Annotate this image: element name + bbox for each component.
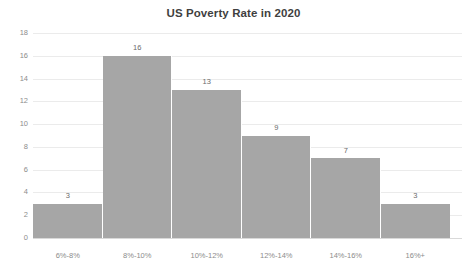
chart-title: US Poverty Rate in 2020 bbox=[0, 7, 467, 19]
y-axis-tick-label: 0 bbox=[0, 234, 28, 242]
x-axis: 6%-8%8%-10%10%-12%12%-14%14%-16%16%+ bbox=[33, 252, 450, 266]
x-axis-tick-label: 8%-10% bbox=[103, 252, 173, 260]
bar[interactable] bbox=[103, 56, 173, 238]
gridline bbox=[33, 238, 462, 239]
bar-value-label: 7 bbox=[311, 147, 381, 155]
y-axis-tick-label: 6 bbox=[0, 166, 28, 174]
bar[interactable] bbox=[311, 158, 381, 238]
bar-value-label: 3 bbox=[381, 192, 451, 200]
x-axis-tick-label: 6%-8% bbox=[33, 252, 103, 260]
y-axis-tick-label: 16 bbox=[0, 52, 28, 60]
y-axis-tick-label: 8 bbox=[0, 143, 28, 151]
bar-value-label: 16 bbox=[103, 44, 173, 52]
y-axis-tick-label: 12 bbox=[0, 98, 28, 106]
bar[interactable] bbox=[242, 136, 312, 239]
y-axis: 181614121086420 bbox=[0, 33, 28, 238]
y-axis-tick-label: 14 bbox=[0, 75, 28, 83]
bar-slot: 7 bbox=[311, 33, 381, 238]
y-axis-tick-label: 10 bbox=[0, 120, 28, 128]
x-axis-tick-label: 16%+ bbox=[381, 252, 451, 260]
bar-slot: 16 bbox=[103, 33, 173, 238]
y-axis-tick-label: 2 bbox=[0, 211, 28, 219]
poverty-rate-histogram: US Poverty Rate in 2020 181614121086420 … bbox=[0, 0, 467, 278]
bar[interactable] bbox=[381, 204, 451, 238]
bar-slot: 9 bbox=[242, 33, 312, 238]
y-axis-tick-label: 4 bbox=[0, 189, 28, 197]
y-axis-tick-label: 18 bbox=[0, 29, 28, 37]
bar-slot: 13 bbox=[172, 33, 242, 238]
bar-value-label: 13 bbox=[172, 78, 242, 86]
bar[interactable] bbox=[33, 204, 103, 238]
bar-slot: 3 bbox=[381, 33, 451, 238]
x-axis-tick-label: 12%-14% bbox=[242, 252, 312, 260]
bars-layer: 31613973 bbox=[33, 33, 450, 238]
bar-value-label: 3 bbox=[33, 192, 103, 200]
x-axis-tick-label: 14%-16% bbox=[311, 252, 381, 260]
bar[interactable] bbox=[172, 90, 242, 238]
bar-slot: 3 bbox=[33, 33, 103, 238]
bar-value-label: 9 bbox=[242, 124, 312, 132]
x-axis-tick-label: 10%-12% bbox=[172, 252, 242, 260]
